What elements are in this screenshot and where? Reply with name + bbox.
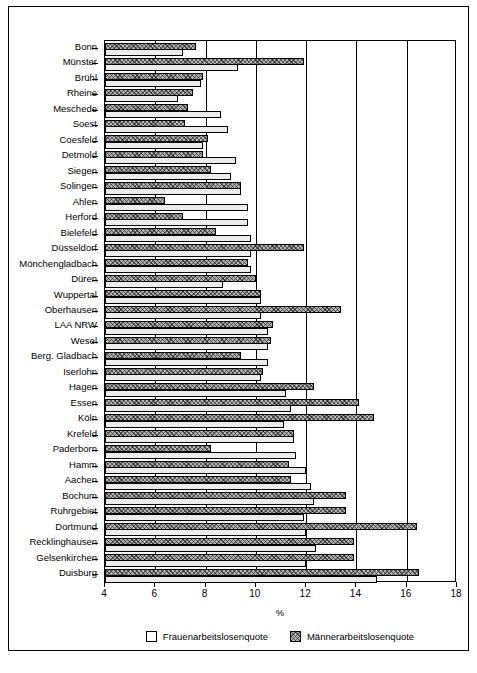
category-tick [92, 187, 98, 188]
bar-women [105, 405, 291, 412]
x-tick-label: 16 [400, 588, 411, 599]
category-tick [92, 388, 98, 389]
bar-women [105, 204, 248, 211]
category-label: Mönchengladbach [19, 259, 97, 269]
category-label: Düsseldorf [52, 243, 97, 253]
legend-label-men: Männerarbeitslosenquote [307, 631, 414, 642]
category-label: Meschede [53, 104, 97, 114]
category-tick [92, 481, 98, 482]
category-tick [92, 265, 98, 266]
category-tick [92, 435, 98, 436]
bar-women [105, 359, 268, 366]
bar-women [105, 374, 261, 381]
category-tick [92, 125, 98, 126]
bar-women [105, 235, 251, 242]
x-tick [406, 582, 407, 587]
bar-women [105, 95, 178, 102]
bar-women [105, 529, 306, 536]
category-label: Hagen [69, 382, 97, 392]
bar-women [105, 514, 304, 521]
bar-women [105, 281, 223, 288]
legend-swatch-men-icon [290, 631, 301, 642]
category-tick [92, 172, 98, 173]
category-tick [92, 141, 98, 142]
x-tick [456, 582, 457, 587]
gridline-14 [356, 41, 357, 581]
category-tick [92, 543, 98, 544]
legend-item-frauen[interactable]: Frauenarbeitslosenquote [146, 631, 268, 642]
x-tick-label: 4 [101, 588, 107, 599]
category-label: Iserlohn [63, 367, 97, 377]
value-axis: 4681012141618 [104, 582, 456, 588]
category-label: Düren [71, 274, 97, 284]
category-tick [92, 63, 98, 64]
bar-women [105, 390, 286, 397]
bar-women [105, 498, 314, 505]
x-tick-label: 12 [300, 588, 311, 599]
bar-women [105, 421, 284, 428]
category-label: Coesfeld [60, 135, 98, 145]
category-label: Rheine [67, 88, 97, 98]
category-label: Paderborn [53, 444, 97, 454]
category-label: Wuppertal [54, 290, 97, 300]
x-tick-label: 6 [152, 588, 158, 599]
legend-swatch-women-icon [146, 631, 157, 642]
category-label: Duisburg [59, 568, 97, 578]
bar-women [105, 312, 261, 319]
bar-women [105, 142, 203, 149]
category-tick [92, 512, 98, 513]
category-tick [92, 234, 98, 235]
category-label: Köln [78, 413, 97, 423]
category-label: Solingen [60, 181, 97, 191]
plot-area [104, 40, 456, 582]
category-label: Hamm [69, 460, 97, 470]
category-tick [92, 419, 98, 420]
x-axis-title: % [104, 607, 456, 618]
bar-women [105, 436, 294, 443]
category-tick [92, 311, 98, 312]
x-tick [305, 582, 306, 587]
category-tick [92, 497, 98, 498]
bar-women [105, 452, 296, 459]
category-tick [92, 357, 98, 358]
x-tick [104, 582, 105, 587]
category-label: Essen [71, 398, 97, 408]
chart-legend: Frauenarbeitslosenquote Männerarbeitslos… [104, 631, 456, 642]
category-tick [92, 559, 98, 560]
category-label: Siegen [67, 166, 97, 176]
category-label: Recklinghausen [29, 537, 97, 547]
bar-women [105, 560, 306, 567]
x-tick [355, 582, 356, 587]
bar-women [105, 111, 221, 118]
bar-women [105, 297, 261, 304]
bar-women [105, 467, 306, 474]
category-tick [92, 48, 98, 49]
x-tick-label: 10 [249, 588, 260, 599]
x-tick-label: 8 [202, 588, 208, 599]
bar-women [105, 49, 183, 56]
category-label: Oberhausen [45, 305, 97, 315]
legend-label-women: Frauenarbeitslosenquote [163, 631, 268, 642]
category-tick [92, 79, 98, 80]
category-label: Berg. Gladbach [31, 351, 97, 361]
bar-women [105, 266, 251, 273]
legend-item-maenner[interactable]: Männerarbeitslosenquote [290, 631, 414, 642]
bar-women [105, 343, 268, 350]
bar-women [105, 64, 238, 71]
category-label: LAA NRW [54, 320, 97, 330]
x-tick [154, 582, 155, 587]
category-label: Bonn [75, 42, 97, 52]
category-label: Krefeld [67, 429, 97, 439]
category-label: Ruhrgebiet [51, 506, 97, 516]
bar-women [105, 80, 201, 87]
category-label: Herford [65, 212, 97, 222]
category-label: Aachen [65, 475, 97, 485]
category-tick [92, 218, 98, 219]
category-tick [92, 574, 98, 575]
category-label: Ahlen [73, 197, 97, 207]
bar-women [105, 250, 251, 257]
category-tick [92, 296, 98, 297]
category-tick [92, 249, 98, 250]
x-tick [205, 582, 206, 587]
category-tick [92, 342, 98, 343]
